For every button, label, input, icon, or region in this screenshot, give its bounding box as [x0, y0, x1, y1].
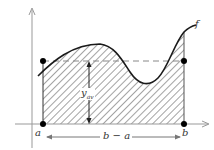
label-yav-sub: av [87, 93, 94, 100]
point-b-yav [181, 58, 187, 64]
average-value-diagram: a b b − a f yav [0, 0, 214, 150]
point-a-yav [40, 58, 46, 64]
label-a: a [35, 128, 41, 138]
label-yav: yav [80, 88, 95, 100]
label-f: f [195, 19, 199, 29]
label-interval-width: b − a [101, 131, 132, 141]
label-b: b [182, 128, 188, 138]
